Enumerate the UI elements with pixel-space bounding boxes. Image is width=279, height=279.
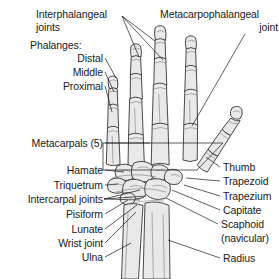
label-scaphoid-line2: (navicular): [221, 232, 269, 245]
label-phalanges-heading: Phalanges:: [30, 39, 82, 52]
label-metacarpophalangeal-line1: Metacarpophalangeal: [160, 8, 259, 20]
carpal-bones: [108, 161, 183, 205]
label-metacarpals: Metacarpals (5): [0, 137, 103, 150]
label-phalanx-middle: Middle: [0, 66, 103, 79]
label-capitate: Capitate: [223, 204, 261, 217]
middle-finger-bones: [151, 26, 169, 165]
index-finger-bones: [183, 36, 198, 162]
label-scaphoid-line1: Scaphoid: [221, 218, 264, 231]
label-wrist-joint: Wrist joint: [0, 237, 103, 250]
label-triquetrum: Triquetrum: [0, 179, 103, 192]
label-radius: Radius: [223, 252, 255, 265]
label-interphalangeal-line1: Interphalangeal: [36, 8, 107, 20]
label-lunate: Lunate: [0, 223, 103, 236]
label-thumb: Thumb: [223, 161, 255, 174]
label-phalanx-distal: Distal: [0, 52, 103, 65]
label-ulna: Ulna: [0, 251, 103, 264]
label-hamate: Hamate: [0, 164, 103, 177]
label-trapezium: Trapezium: [223, 190, 271, 203]
label-pisiform: Pisiform: [0, 208, 103, 221]
label-phalanx-proximal: Proximal: [0, 80, 103, 93]
label-intercarpal-joints: Intercarpal joints: [0, 193, 103, 206]
label-interphalangeal-joints: Interphalangeal joints: [36, 8, 128, 33]
label-interphalangeal-line2: joints: [36, 21, 60, 33]
ring-finger-bones: [128, 44, 144, 167]
label-trapezoid: Trapezoid: [223, 175, 268, 188]
hand-skeleton-figure: .bone{fill:#e9e9e9;stroke:#2b2b2b;stroke…: [0, 0, 279, 279]
label-metacarpophalangeal-line2: joint: [160, 21, 278, 34]
forearm-bones: [122, 202, 171, 279]
label-metacarpophalangeal-joint: Metacarpophalangeal joint: [160, 8, 278, 33]
